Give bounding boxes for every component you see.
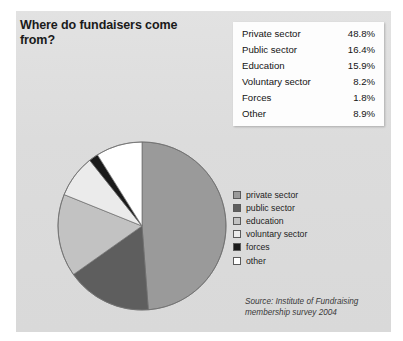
legend-swatch-icon (233, 243, 241, 251)
figure-root: Where do fundaisers come from? Private s… (0, 0, 403, 341)
table-row: Private sector 48.8% (242, 26, 375, 42)
table-cell-label: Voluntary sector (242, 74, 311, 90)
legend-item-private-sector: private sector (233, 188, 363, 201)
pie-chart-svg (57, 141, 227, 311)
table-cell-value: 48.8% (348, 26, 375, 42)
table-cell-label: Other (242, 106, 266, 122)
page-title: Where do fundaisers come from? (20, 18, 210, 48)
legend-item-voluntary-sector: voluntary sector (233, 228, 363, 241)
legend-item-other: other (233, 254, 363, 267)
legend-swatch-icon (233, 257, 241, 265)
table-cell-value: 1.8% (353, 90, 375, 106)
source-line-1: Source: Institute of Fundraising (245, 296, 390, 307)
table-cell-value: 16.4% (348, 42, 375, 58)
legend-label: other (246, 256, 266, 266)
legend-swatch-icon (233, 191, 241, 199)
source-note: Source: Institute of Fundraising members… (245, 296, 390, 318)
legend-label: voluntary sector (246, 229, 307, 239)
legend-swatch-icon (233, 217, 241, 225)
data-table: Private sector 48.8% Public sector 16.4%… (233, 22, 384, 126)
source-line-2: membership survey 2004 (245, 307, 390, 318)
table-cell-value: 15.9% (348, 58, 375, 74)
legend-item-forces: forces (233, 241, 363, 254)
table-row: Voluntary sector 8.2% (242, 74, 375, 90)
table-row: Other 8.9% (242, 106, 375, 122)
table-row: Education 15.9% (242, 58, 375, 74)
legend-item-education: education (233, 214, 363, 227)
legend-label: private sector (246, 190, 298, 200)
legend-label: public sector (246, 203, 295, 213)
table-cell-label: Education (242, 58, 285, 74)
data-table-body: Private sector 48.8% Public sector 16.4%… (233, 22, 384, 126)
legend: private sector public sector education v… (233, 188, 363, 267)
table-cell-value: 8.2% (353, 74, 375, 90)
table-row: Forces 1.8% (242, 90, 375, 106)
legend-swatch-icon (233, 230, 241, 238)
legend-item-public-sector: public sector (233, 201, 363, 214)
pie-slice-private-sector (142, 142, 226, 310)
table-cell-value: 8.9% (353, 106, 375, 122)
table-cell-label: Forces (242, 90, 271, 106)
table-row: Public sector 16.4% (242, 42, 375, 58)
pie-chart (57, 141, 227, 311)
table-cell-label: Public sector (242, 42, 297, 58)
legend-label: education (246, 216, 284, 226)
table-cell-label: Private sector (242, 26, 301, 42)
pie-slices (58, 142, 226, 310)
legend-label: forces (246, 242, 270, 252)
legend-swatch-icon (233, 204, 241, 212)
